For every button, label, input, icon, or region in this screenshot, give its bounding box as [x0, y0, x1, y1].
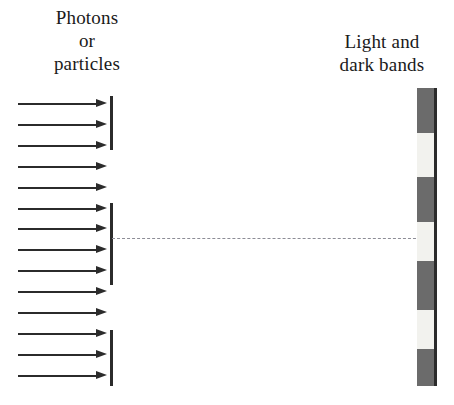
beam-arrow	[18, 183, 107, 192]
arrow-head-icon	[96, 350, 107, 358]
arrow-head-icon	[96, 371, 107, 379]
arrow-shaft	[18, 375, 97, 377]
optical-axis-dashed-line	[112, 238, 421, 239]
light-band	[417, 310, 434, 349]
arrow-head-icon	[96, 120, 107, 128]
barrier-segment	[110, 96, 113, 150]
beam-arrow	[18, 120, 107, 129]
arrow-shaft	[18, 145, 97, 147]
arrow-shaft	[18, 291, 97, 293]
arrow-shaft	[18, 354, 97, 356]
arrow-head-icon	[96, 308, 107, 316]
physics-diagram-canvas: Photons or particles Light and dark band…	[0, 0, 454, 405]
beam-arrow	[18, 350, 107, 359]
beam-arrow	[18, 162, 107, 171]
arrow-shaft	[18, 270, 97, 272]
arrow-head-icon	[96, 329, 107, 337]
beam-arrow	[18, 141, 107, 150]
arrow-shaft	[18, 187, 97, 189]
beam-arrow	[18, 224, 107, 233]
detection-screen	[417, 88, 437, 386]
source-label: Photons or particles	[4, 6, 170, 75]
arrow-shaft	[18, 103, 97, 105]
barrier-segment	[110, 203, 113, 285]
barrier-segment	[110, 330, 113, 386]
beam-arrow	[18, 266, 107, 275]
arrow-head-icon	[96, 204, 107, 212]
arrow-shaft	[18, 312, 97, 314]
beam-arrow	[18, 245, 107, 254]
dark-band	[417, 261, 434, 310]
beam-arrow	[18, 204, 107, 213]
arrow-head-icon	[96, 99, 107, 107]
arrow-shaft	[18, 333, 97, 335]
arrow-shaft	[18, 249, 97, 251]
beam-arrow	[18, 308, 107, 317]
arrow-head-icon	[96, 245, 107, 253]
arrow-shaft	[18, 166, 97, 168]
arrow-head-icon	[96, 162, 107, 170]
beam-arrow	[18, 329, 107, 338]
beam-arrow	[18, 287, 107, 296]
light-band	[417, 133, 434, 177]
arrow-shaft	[18, 124, 97, 126]
arrow-shaft	[18, 208, 97, 210]
dark-band	[417, 349, 434, 386]
arrow-head-icon	[96, 224, 107, 232]
arrow-head-icon	[96, 287, 107, 295]
arrow-head-icon	[96, 266, 107, 274]
arrow-head-icon	[96, 141, 107, 149]
dark-band	[417, 177, 434, 222]
arrow-head-icon	[96, 183, 107, 191]
beam-arrow	[18, 371, 107, 380]
screen-label: Light and dark bands	[312, 30, 452, 76]
beam-arrow	[18, 99, 107, 108]
dark-band	[417, 88, 434, 133]
light-band	[417, 222, 434, 261]
arrow-shaft	[18, 228, 97, 230]
